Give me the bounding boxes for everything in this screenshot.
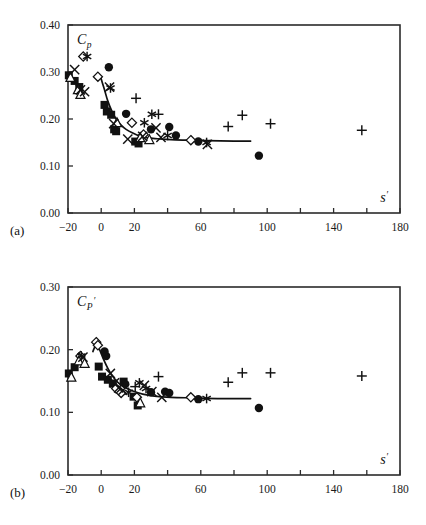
x-tick-label: 20 <box>129 221 141 233</box>
x-axis-title-prime: ′ <box>386 190 389 200</box>
x-tick-label: 0 <box>98 483 104 495</box>
y-tick-label: 0.30 <box>40 281 60 293</box>
x-axis-title: s′ <box>380 190 389 205</box>
y-tick-label: 0.20 <box>40 344 60 356</box>
plot-frame <box>68 287 400 475</box>
filled-square-marker <box>107 111 115 119</box>
x-tick-label: 140 <box>325 221 343 233</box>
panel-label: (a) <box>10 223 24 238</box>
y-axis-title-subscript: P <box>86 302 93 312</box>
y-tick-label: 0.30 <box>40 66 60 78</box>
filled-circle-marker <box>122 110 130 118</box>
x-tick-label: 60 <box>195 221 207 233</box>
x-tick-label: 140 <box>325 483 343 495</box>
x-tick-label: 0 <box>98 221 104 233</box>
open-diamond-marker <box>186 393 195 402</box>
y-axis-title: Cp <box>77 32 92 50</box>
x-tick-label: 100 <box>259 221 277 233</box>
open-diamond-marker <box>186 136 195 145</box>
filled-circle-marker <box>105 63 113 71</box>
open-diamond-marker <box>127 118 136 127</box>
series-filled-circle <box>105 63 263 160</box>
open-triangle-marker <box>112 118 121 127</box>
filled-square-marker <box>112 127 120 135</box>
y-tick-label: 0.00 <box>40 207 60 219</box>
chart-panel-a: −20020601001401800.000.100.200.300.40Cps… <box>0 0 426 262</box>
filled-circle-marker <box>172 131 180 139</box>
filled-square-marker <box>95 363 103 371</box>
x-axis-title: s′ <box>380 452 389 467</box>
x-tick-label: −20 <box>59 221 77 233</box>
x-tick-label: −20 <box>59 483 77 495</box>
y-tick-label: 0.20 <box>40 113 60 125</box>
y-tick-label: 0.00 <box>40 469 60 481</box>
y-axis-title-prime: ′ <box>93 296 96 306</box>
chart-svg-a: −20020601001401800.000.100.200.300.40Cps… <box>0 0 426 262</box>
filled-circle-marker <box>255 404 263 412</box>
x-axis-title-prime: ′ <box>386 452 389 462</box>
filled-circle-marker <box>100 347 108 355</box>
filled-circle-marker <box>255 151 263 159</box>
y-tick-label: 0.40 <box>40 19 60 31</box>
x-tick-label: 180 <box>391 221 409 233</box>
y-tick-label: 0.10 <box>40 406 60 418</box>
series-filled-square <box>65 363 142 410</box>
y-axis-title: CP′ <box>77 294 96 312</box>
panel-label: (b) <box>10 485 25 500</box>
filled-circle-marker <box>194 395 202 403</box>
y-axis-title-subscript: p <box>86 40 92 50</box>
x-tick-label: 20 <box>129 483 141 495</box>
filled-circle-marker <box>194 137 202 145</box>
figure-container: −20020601001401800.000.100.200.300.40Cps… <box>0 0 426 525</box>
x-tick-label: 180 <box>391 483 409 495</box>
x-tick-label: 100 <box>259 483 277 495</box>
chart-panel-b: −20020601001401800.000.100.200.30CP′s′(b… <box>0 262 426 524</box>
x-tick-label: 60 <box>195 483 207 495</box>
y-tick-label: 0.10 <box>40 160 60 172</box>
chart-svg-b: −20020601001401800.000.100.200.30CP′s′(b… <box>0 262 426 524</box>
filled-circle-marker <box>165 123 173 131</box>
